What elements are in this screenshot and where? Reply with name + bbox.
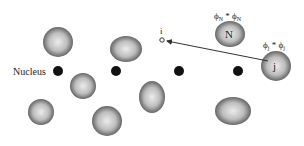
nucleus-dot	[174, 66, 184, 76]
electron-cloud	[70, 73, 96, 99]
phi-N-label: ϕN * ϕN	[214, 11, 242, 22]
arrow	[167, 41, 268, 61]
electron-cloud	[215, 97, 251, 125]
point-i-label: i	[160, 26, 163, 36]
nucleus-dot	[111, 66, 121, 76]
blob-j-label: j	[272, 60, 276, 72]
nucleus-dot	[233, 66, 243, 76]
electron-cloud	[28, 99, 54, 125]
electron-cloud	[139, 81, 165, 113]
nucleus-dot	[53, 66, 63, 76]
point-i	[160, 38, 164, 42]
electron-cloud	[110, 36, 142, 62]
phi-j-label: ϕj * ϕj	[263, 40, 285, 51]
nucleus-label: Nucleus	[13, 66, 46, 77]
blob-N-label: N	[225, 28, 233, 40]
electron-cloud	[92, 106, 122, 136]
electron-density-diagram: Nucleus i N j ϕN * ϕN ϕj * ϕj	[0, 0, 304, 146]
electron-cloud	[43, 27, 73, 57]
